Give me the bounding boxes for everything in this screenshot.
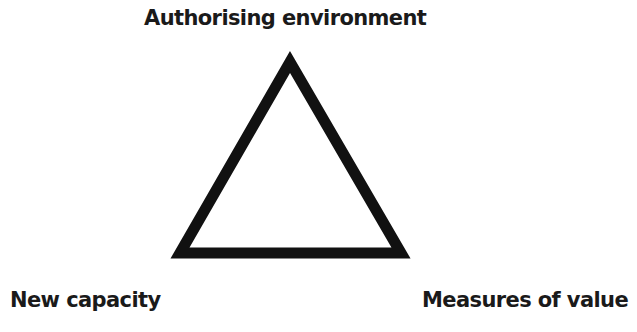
triangle-shape bbox=[0, 0, 637, 332]
node-label-authorising-environment: Authorising environment bbox=[144, 8, 426, 29]
triangle-outline bbox=[180, 62, 401, 253]
node-label-new-capacity: New capacity bbox=[10, 290, 161, 311]
node-label-measures-of-value: Measures of value bbox=[422, 290, 628, 311]
